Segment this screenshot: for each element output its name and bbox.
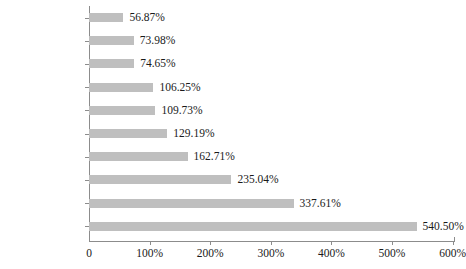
bar [89,106,155,115]
bar-row: 已磨的姜337.61% [89,192,454,215]
bar-value-label: 74.65% [134,52,175,75]
bar-value-label: 337.61% [294,192,341,215]
bar-row: 青蒿56.87% [89,6,454,29]
x-axis-tick-label: 300% [257,247,284,259]
bar-row: 党参74.65% [89,52,454,75]
x-axis-end-cap [454,237,455,242]
x-axis-tick [392,241,393,245]
bar-value-label: 56.87% [123,6,164,29]
x-axis-tick-label: 100% [136,247,163,259]
x-axis-tick [150,241,151,245]
x-axis-tick [271,241,272,245]
x-axis-tick [331,241,332,245]
bar-row: 枸杞106.25% [89,76,454,99]
bar-value-label: 106.25% [153,76,200,99]
bar-value-label: 129.19% [167,122,214,145]
bar [89,59,134,68]
bar-row: 槐米162.71% [89,145,454,168]
bar-value-label: 109.73% [155,99,202,122]
bar [89,83,153,92]
bar-row: 半夏129.19% [89,122,454,145]
bar-value-label: 540.50% [417,215,464,238]
x-axis-tick [210,241,211,245]
x-axis-tick-label: 200% [197,247,224,259]
bar-row: 三七（田七）235.04% [89,168,454,191]
bar [89,129,167,138]
bar-row: 甜叶菊叶540.50% [89,215,454,238]
bar-value-label: 162.71% [188,145,235,168]
bar-value-label: 235.04% [231,168,278,191]
bar [89,152,188,161]
x-axis-tick-label: 400% [318,247,345,259]
horizontal-bar-chart: 青蒿56.87%川芎73.98%党参74.65%枸杞106.25%黄芪109.7… [0,0,466,269]
bar [89,13,123,22]
x-axis-tick-label: 0 [86,247,92,259]
bar [89,222,417,231]
bar-row: 黄芪109.73% [89,99,454,122]
x-axis-tick-label: 600% [439,247,466,259]
bar-row: 川芎73.98% [89,29,454,52]
plot-area: 青蒿56.87%川芎73.98%党参74.65%枸杞106.25%黄芪109.7… [89,6,454,241]
x-axis-tick-label: 500% [379,247,406,259]
bar [89,199,294,208]
bar [89,36,134,45]
bar-value-label: 73.98% [134,29,175,52]
bar [89,175,231,184]
x-axis-line [89,241,455,242]
